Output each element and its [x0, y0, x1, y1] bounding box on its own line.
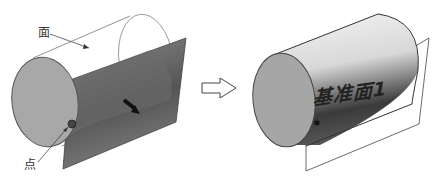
face-label: 面 [38, 23, 50, 40]
left-cylinder [6, 11, 186, 169]
point-marker-icon: ✱ [313, 118, 321, 128]
transform-arrow-icon [202, 78, 236, 98]
selected-point [68, 120, 76, 128]
point-label: 点 [24, 155, 36, 172]
